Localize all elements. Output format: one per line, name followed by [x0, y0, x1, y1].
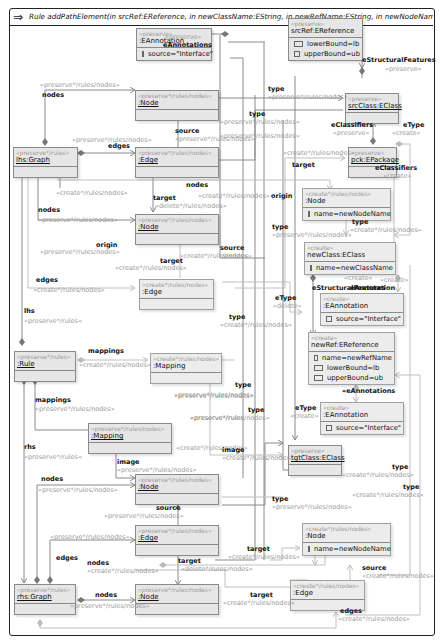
mapping-node[interactable]: «preserve*/rules/nodes»:Mapping	[88, 423, 172, 454]
edge-stereotype-label: «preserve*/rules/nodes»	[272, 231, 352, 239]
edge-stereotype-label: «preserve*/rules/nodes»	[220, 118, 300, 126]
eannotation-create-node-mid[interactable]: «create»:EAnnotation source="Interface"	[320, 293, 404, 326]
attribute-row: name=newNodeName	[305, 209, 388, 219]
edge-role-label: source	[156, 504, 180, 512]
edge-stereotype-label: «create*/rules/nodes»	[362, 572, 434, 580]
edge-role-label: edges	[36, 276, 58, 284]
edge-role-label: mappings	[35, 396, 71, 404]
attribute-row: source="Interface"	[139, 49, 209, 59]
edge-stereotype-label: «preserve»	[165, 33, 202, 41]
edge-stereotype-label: «create*/rules/nodes»	[198, 192, 270, 200]
edge-role-label: source	[175, 127, 199, 135]
edge-role-label: eType	[295, 404, 316, 412]
edge-stereotype-label: /nodes»	[222, 252, 248, 260]
edge-stereotype-label: «create»	[392, 129, 421, 137]
edge-role-label: type	[235, 381, 251, 389]
rhs-node-2[interactable]: «preserve*/rules/nodes»:Node	[135, 584, 219, 615]
edge-stereotype-label: «create*/rules/nodes»	[283, 149, 355, 157]
attribute-icon	[308, 546, 310, 552]
edge-role-label: type	[392, 463, 408, 471]
edge-role-label: nodes	[95, 591, 117, 599]
attribute-icon	[310, 265, 312, 271]
edge-role-label: eAnnotations	[163, 41, 212, 49]
edge-role-label: nodes	[42, 91, 64, 99]
edge-stereotype-label: «create*/rules/nodes»	[352, 491, 424, 499]
lhs-edge-node[interactable]: «preserve*/rules/nodes»:Edge	[135, 147, 219, 178]
new-node-bottom[interactable]: «create*/rules/nodes»:Node name=newNodeN…	[302, 523, 391, 556]
edge-stereotype-label: «preserve*/rules/nodes»	[50, 533, 130, 541]
edge-stereotype-label: «preserve*/rules/nodes»	[38, 486, 118, 494]
mapping-create-node[interactable]: «create*/rules/nodes»:Mapping	[150, 353, 222, 384]
lhs-node-1[interactable]: «preserve*/rules/nodes»:Node	[135, 90, 219, 121]
edge-stereotype-label: «preserve*/rules/nodes»	[35, 405, 115, 413]
rhs-graph-node[interactable]: «preserve*/rules»rhs:Graph	[14, 584, 76, 615]
edge-role-label: type	[272, 223, 288, 231]
edge-role-label: eType	[403, 121, 424, 129]
edge-role-label: target	[292, 161, 315, 169]
edge-stereotype-label: «preserve*/rules/nodes»	[190, 414, 270, 422]
edge-role-label: eClassifiers	[331, 121, 373, 129]
edge-stereotype-label: «preserve»	[333, 129, 370, 137]
edge-role-label: eStructuralFeatures	[312, 284, 386, 292]
edge-role-label: edges	[340, 607, 362, 615]
edge-stereotype-label: «preserve*/rules/nodes»	[268, 93, 348, 101]
attribute-icon	[142, 51, 144, 57]
attribute-icon	[314, 355, 318, 361]
edge-role-label: eClassifiers	[375, 164, 417, 172]
edge-role-label: nodes	[41, 475, 63, 483]
edge-role-label: nodes	[87, 559, 109, 567]
edge-stereotype-label: «delete*/rules/nodes»	[181, 565, 253, 573]
edge-stereotype-label: «preserve*/rules/nodes»	[174, 391, 254, 399]
edge-role-label: eStructuralFeatures	[362, 56, 436, 64]
attribute-icon	[308, 211, 310, 217]
edge-role-label: type	[352, 218, 368, 226]
edge-stereotype-label: «create*/rules/nodes»	[338, 615, 410, 623]
rhs-node-1[interactable]: «preserve*/rules/nodes»:Node	[135, 474, 219, 505]
edge-role-label: type	[248, 406, 264, 414]
edge-role-label: target	[250, 591, 273, 599]
edge-stereotype-label: «create»	[380, 276, 409, 284]
attribute-icon	[314, 375, 323, 381]
edge-stereotype-label: «create*/rules/nodes»	[350, 226, 422, 234]
edge-stereotype-label: «preserve*/rules/nodes»	[40, 81, 120, 89]
edge-stereotype-label: «preserve*/rules/nodes»	[272, 503, 352, 511]
attribute-row: source="Interface"	[323, 423, 401, 433]
newref-ereference-node[interactable]: «create»newRef:EReference name=newRefNam…	[308, 332, 395, 385]
edge-role-label: eType	[275, 294, 296, 302]
edge-role-label: type	[249, 110, 265, 118]
lhs-graph-node[interactable]: «preserve*/rules»lhs:Graph	[13, 147, 78, 178]
edge-role-label: type	[229, 313, 245, 321]
attribute-icon	[314, 365, 323, 371]
edge-role-label: edges	[56, 554, 78, 562]
rule-node[interactable]: «preserve*/rules»:Rule	[14, 351, 76, 382]
edge-role-label: nodes	[186, 181, 208, 189]
rhs-edge-node[interactable]: «preserve*/rules/nodes»:Edge	[135, 525, 219, 556]
srcclass-eclass-node[interactable]: «preserve»srcClass:EClass	[345, 93, 399, 124]
edge-stereotype-label: «preserve*/rules/nodes»	[104, 512, 184, 520]
attribute-icon	[294, 41, 303, 47]
attribute-row: name=newClassName	[307, 263, 393, 273]
new-node-top[interactable]: «create*/rules/nodes»:Node name=newNodeN…	[302, 188, 391, 221]
edge-role-label: type	[268, 85, 284, 93]
attribute-icon	[326, 425, 332, 431]
edge-stereotype-label: «create»	[344, 274, 373, 282]
edge-stereotype-label: «create*/rules/nodes»	[87, 567, 159, 575]
edge-role-label: type	[403, 483, 419, 491]
edge-stereotype-label: «preserve*/rules/nodes»	[40, 248, 120, 256]
edge-role-label: nodes	[38, 206, 60, 214]
edge-role-label: image	[117, 458, 139, 466]
newclass-eclass-node[interactable]: «create»newClass:EClass name=newClassNam…	[304, 242, 396, 275]
new-edge-top[interactable]: «create*/rules/nodes»:Edge	[139, 279, 214, 310]
tgtclass-eclass-node[interactable]: «preserve»tgtClass:EClass	[288, 445, 342, 476]
eannotation-create-node-low[interactable]: «create»:EAnnotation source="Interface"	[320, 402, 404, 435]
edge-stereotype-label: «preserve»	[385, 65, 422, 73]
edge-role-label: type	[272, 495, 288, 503]
lhs-node-2[interactable]: «preserve*/rules/nodes»:Node	[135, 214, 219, 245]
edge-stereotype-label: «preserve*/rules/nodes»	[117, 466, 197, 474]
edge-stereotype-label: «create*/rules/nodes»	[79, 361, 151, 369]
edge-stereotype-label: «create*/rules/nodes»	[223, 599, 295, 607]
edge-role-label: target	[247, 545, 270, 553]
srcref-ereference-node[interactable]: «preserve»srcRef:EReference lowerBound=l…	[288, 18, 363, 61]
edge-role-label: source	[220, 244, 244, 252]
edge-role-label: mappings	[88, 347, 124, 355]
